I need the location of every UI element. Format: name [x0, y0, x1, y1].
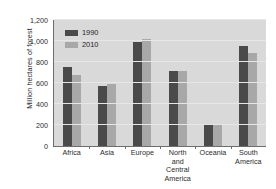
y-tick-label: 1,200 [30, 16, 48, 25]
chart-page: Million hectares of forest 0200400600800… [0, 0, 276, 189]
x-tick-mark [89, 146, 90, 149]
legend-swatch [65, 42, 78, 48]
gridline [54, 103, 266, 104]
y-tick-label: 400 [36, 100, 48, 109]
x-tick-label: Oceania [195, 149, 230, 183]
bar [213, 124, 222, 146]
bar [142, 39, 151, 146]
x-tick-label: Europe [125, 149, 160, 183]
bar-group [231, 20, 266, 146]
x-tick-mark [231, 146, 232, 149]
legend-swatch [65, 30, 78, 36]
gridline [54, 124, 266, 125]
x-axis-labels: AfricaAsiaEuropeNorthand CentralAmericaO… [54, 149, 266, 183]
legend-item: 2010 [65, 40, 98, 49]
y-tick-label: 800 [36, 58, 48, 67]
bar [107, 84, 116, 146]
x-tick-label: SouthAmerica [231, 149, 266, 183]
gridline [54, 19, 266, 20]
legend-item: 1990 [65, 28, 98, 37]
y-tick-label: 600 [36, 79, 48, 88]
y-axis-ticks: 02004006008001,0001,200 [22, 20, 48, 146]
bar [98, 86, 107, 146]
y-tick-label: 0 [44, 142, 48, 151]
x-tick-mark [160, 146, 161, 149]
bar-chart: Million hectares of forest 0200400600800… [8, 6, 268, 180]
x-tick-mark [195, 146, 196, 149]
legend-label: 2010 [82, 40, 98, 49]
bar [248, 53, 257, 146]
bar-group [195, 20, 230, 146]
x-tick-label: Africa [54, 149, 89, 183]
bar [63, 67, 72, 146]
chart-legend: 19902010 [65, 28, 98, 49]
x-tick-mark [125, 146, 126, 149]
bar [204, 124, 213, 146]
bar-group [160, 20, 195, 146]
gridline [54, 61, 266, 62]
bar [72, 75, 81, 146]
bar-group [125, 20, 160, 146]
gridline [54, 82, 266, 83]
x-tick-label: Asia [89, 149, 124, 183]
legend-label: 1990 [82, 28, 98, 37]
x-tick-label: Northand CentralAmerica [160, 149, 195, 183]
y-tick-label: 1,000 [30, 37, 48, 46]
bar [133, 42, 142, 146]
y-tick-label: 200 [36, 121, 48, 130]
